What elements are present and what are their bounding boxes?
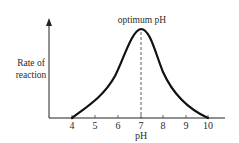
y-axis-label-line2: reaction <box>16 70 47 80</box>
y-axis-arrow-icon <box>46 18 52 26</box>
x-tick-label: 8 <box>161 120 166 131</box>
x-tick-label: 4 <box>70 120 75 131</box>
y-axis-label-line1: Rate of <box>17 58 46 68</box>
x-tick-label: 9 <box>184 120 189 131</box>
chart-canvas: 4 5 6 7 8 9 10 pH Rate of reaction optim… <box>0 0 239 143</box>
x-tick-label: 5 <box>93 120 98 131</box>
rate-curve <box>72 29 208 118</box>
optimum-ph-annotation: optimum pH <box>118 15 166 25</box>
x-axis-label: pH <box>135 130 147 141</box>
x-tick-label: 10 <box>203 120 213 131</box>
rate-vs-ph-diagram: 4 5 6 7 8 9 10 pH Rate of reaction optim… <box>0 0 239 143</box>
x-tick-label: 6 <box>116 120 121 131</box>
